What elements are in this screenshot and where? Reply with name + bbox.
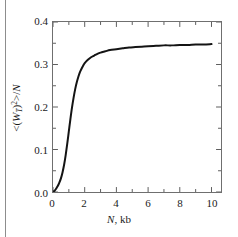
x-tick-label-4: 4 (113, 198, 119, 209)
plot-area (52, 21, 222, 193)
y-tick-label-1: 0.1 (26, 145, 48, 156)
x-tick-label-0: 0 (49, 198, 55, 209)
x-tick-label-6: 6 (145, 198, 151, 209)
y-tick-label-0: 0.0 (26, 188, 48, 199)
x-axis-label: N, kb (0, 214, 238, 225)
y-axis-label-tail: >/ (10, 91, 22, 100)
data-curve (53, 22, 221, 192)
y-tick-label-2: 0.2 (26, 102, 48, 113)
x-tick-label-10: 10 (207, 198, 218, 209)
y-axis-label-open: <( (10, 121, 22, 131)
y-axis-label-wrap: <(WT)2>/N (8, 60, 26, 155)
chart-figure: 0.0 0.1 0.2 0.3 0.4 0 2 4 6 8 10 N, kb <… (0, 0, 238, 237)
figure-left-rule (5, 0, 6, 237)
y-axis-label-sup: 2 (10, 100, 19, 104)
y-axis-label: <(WT)2>/N (11, 84, 23, 131)
y-axis-label-n: N (10, 84, 22, 91)
x-tick-label-2: 2 (81, 198, 87, 209)
y-axis-label-w: W (10, 112, 22, 121)
y-axis-label-close: ) (10, 104, 22, 108)
x-axis-label-units: , kb (114, 213, 131, 225)
y-tick-label-3: 0.3 (26, 59, 48, 70)
y-tick-label-4: 0.4 (26, 16, 48, 27)
x-tick-label-8: 8 (177, 198, 183, 209)
